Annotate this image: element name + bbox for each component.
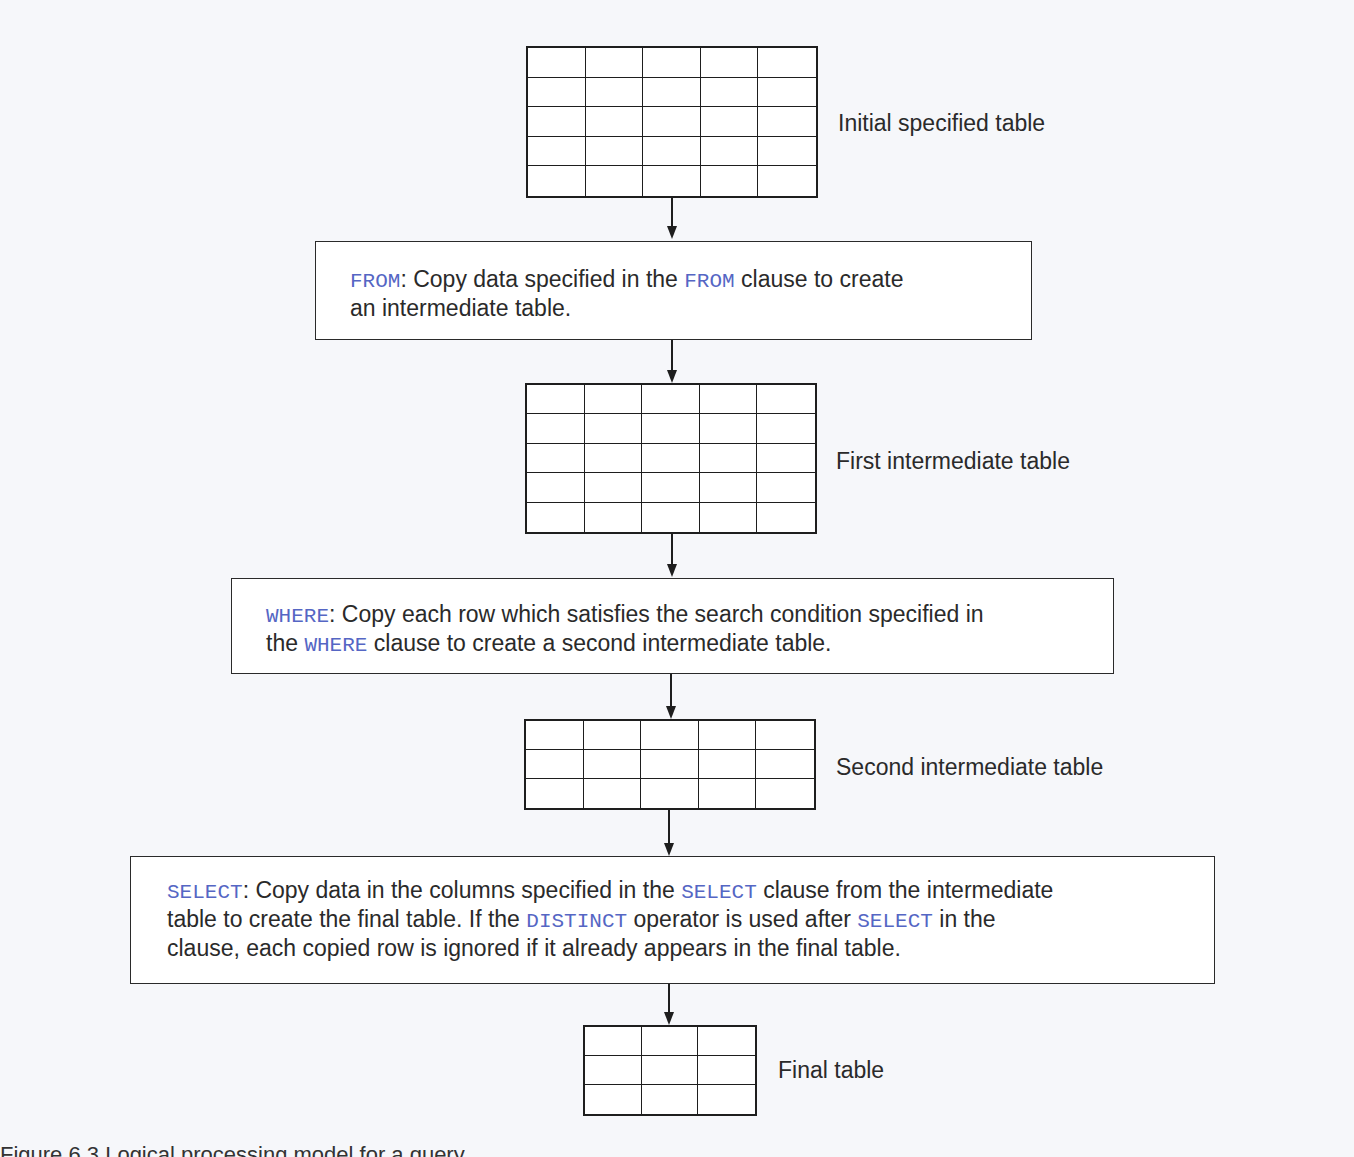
select-line-1: SELECT: Copy data in the columns specifi… — [167, 877, 1178, 906]
table-cell — [526, 750, 584, 779]
from-step-box: FROM: Copy data specified in the FROM cl… — [315, 241, 1032, 340]
table-cell — [757, 444, 815, 473]
keyword-where: WHERE — [266, 605, 329, 628]
keyword-distinct: DISTINCT — [526, 910, 627, 933]
connector-line — [668, 810, 670, 844]
arrow-down-icon — [664, 843, 674, 856]
connector-line — [670, 674, 672, 706]
table-cell — [584, 721, 642, 750]
first-intermediate-label: First intermediate table — [836, 448, 1070, 475]
table-cell — [700, 414, 758, 443]
keyword-select: SELECT — [167, 881, 243, 904]
initial-table-label: Initial specified table — [838, 110, 1045, 137]
select-text: operator is used after — [627, 906, 857, 932]
connector-line — [671, 340, 673, 370]
table-cell — [585, 473, 643, 502]
table-cell — [642, 1085, 699, 1114]
table-cell — [700, 385, 758, 414]
table-cell — [700, 444, 758, 473]
table-cell — [527, 503, 585, 532]
connector-line — [668, 984, 670, 1012]
table-cell — [586, 107, 644, 137]
select-line-3: clause, each copied row is ignored if it… — [167, 935, 1178, 961]
arrow-down-icon — [666, 706, 676, 719]
keyword-from: FROM — [350, 270, 400, 293]
table-cell — [642, 473, 700, 502]
table-cell — [756, 721, 814, 750]
table-cell — [758, 137, 816, 167]
table-cell — [527, 385, 585, 414]
table-cell — [643, 166, 701, 196]
table-cell — [757, 385, 815, 414]
table-cell — [699, 721, 757, 750]
where-text: : Copy each row which satisfies the sear… — [329, 601, 984, 627]
select-text: in the — [933, 906, 996, 932]
table-cell — [586, 137, 644, 167]
table-cell — [756, 750, 814, 779]
second-intermediate-label: Second intermediate table — [836, 754, 1103, 781]
where-text: clause to create a second intermediate t… — [367, 630, 831, 656]
arrow-down-icon — [667, 564, 677, 577]
table-cell — [527, 473, 585, 502]
table-cell — [642, 503, 700, 532]
table-cell — [585, 1085, 642, 1114]
table-cell — [528, 48, 586, 78]
table-cell — [758, 78, 816, 108]
table-cell — [586, 48, 644, 78]
select-line-2: table to create the final table. If the … — [167, 906, 1178, 935]
from-line-2: an intermediate table. — [350, 295, 997, 321]
first-intermediate-table — [525, 383, 817, 534]
where-text: the — [266, 630, 304, 656]
table-cell — [527, 414, 585, 443]
where-step-box: WHERE: Copy each row which satisfies the… — [231, 578, 1114, 674]
select-text: : Copy data in the columns specified in … — [243, 877, 682, 903]
table-cell — [641, 750, 699, 779]
table-cell — [757, 473, 815, 502]
table-cell — [585, 503, 643, 532]
table-cell — [586, 166, 644, 196]
figure-caption: Figure 6.3 Logical processing model for … — [0, 1140, 465, 1157]
table-cell — [699, 779, 757, 808]
table-cell — [643, 107, 701, 137]
select-text: clause from the intermediate — [757, 877, 1054, 903]
keyword-where: WHERE — [304, 634, 367, 657]
arrow-down-icon — [667, 370, 677, 383]
table-cell — [643, 137, 701, 167]
table-cell — [701, 107, 759, 137]
table-cell — [585, 385, 643, 414]
final-table — [583, 1025, 757, 1116]
table-cell — [643, 48, 701, 78]
table-cell — [643, 78, 701, 108]
table-cell — [528, 78, 586, 108]
table-cell — [701, 137, 759, 167]
keyword-select: SELECT — [681, 881, 757, 904]
arrow-down-icon — [667, 226, 677, 239]
table-cell — [642, 1056, 699, 1085]
table-cell — [527, 444, 585, 473]
table-cell — [586, 78, 644, 108]
connector-line — [671, 534, 673, 564]
table-cell — [642, 1027, 699, 1056]
select-text: table to create the final table. If the — [167, 906, 526, 932]
table-cell — [642, 414, 700, 443]
where-line-1: WHERE: Copy each row which satisfies the… — [266, 601, 1079, 630]
table-cell — [585, 1056, 642, 1085]
from-line-1: FROM: Copy data specified in the FROM cl… — [350, 266, 997, 295]
table-cell — [758, 107, 816, 137]
arrow-down-icon — [664, 1012, 674, 1025]
keyword-from: FROM — [684, 270, 734, 293]
table-cell — [757, 503, 815, 532]
table-cell — [698, 1027, 755, 1056]
where-line-2: the WHERE clause to create a second inte… — [266, 630, 1079, 659]
table-cell — [585, 414, 643, 443]
from-text: : Copy data specified in the — [400, 266, 684, 292]
second-intermediate-table — [524, 719, 816, 810]
connector-line — [671, 198, 673, 226]
table-cell — [758, 166, 816, 196]
table-cell — [758, 48, 816, 78]
table-cell — [528, 137, 586, 167]
table-cell — [756, 779, 814, 808]
table-cell — [526, 779, 584, 808]
table-cell — [528, 166, 586, 196]
table-cell — [699, 750, 757, 779]
